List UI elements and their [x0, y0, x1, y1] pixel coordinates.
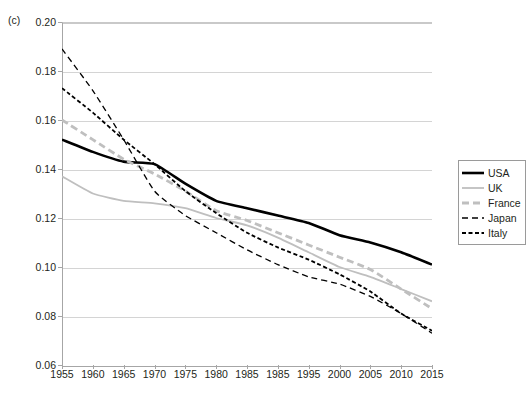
legend-item-france[interactable]: France — [461, 195, 522, 210]
x-axis-tick-mark — [124, 365, 125, 369]
x-axis-tick-mark — [185, 365, 186, 369]
legend-swatch-uk-icon — [461, 182, 485, 194]
x-axis-tick-mark — [432, 365, 433, 369]
legend-swatch-usa-icon — [461, 167, 485, 179]
legend-swatch-france-icon — [461, 197, 485, 209]
x-axis-tick-mark — [401, 365, 402, 369]
legend-label: France — [485, 197, 521, 209]
legend-label: Japan — [485, 212, 517, 224]
legend-item-uk[interactable]: UK — [461, 180, 522, 195]
legend-label: USA — [485, 167, 510, 179]
series-line-uk — [62, 176, 432, 301]
legend-item-usa[interactable]: USA — [461, 165, 522, 180]
x-axis-tick-mark — [340, 365, 341, 369]
x-axis-tick-mark — [247, 365, 248, 369]
x-axis-tick-mark — [278, 365, 279, 369]
series-line-usa — [62, 140, 432, 265]
legend-swatch-japan-icon — [461, 212, 485, 224]
x-axis-tick-mark — [370, 365, 371, 369]
legend-swatch-italy-icon — [461, 227, 485, 239]
x-axis-tick-mark — [216, 365, 217, 369]
x-axis-tick-label: 2015 — [412, 368, 452, 380]
legend-label: Italy — [485, 227, 507, 239]
series-line-japan — [62, 49, 432, 333]
x-axis-tick-mark — [62, 365, 63, 369]
series-line-france — [62, 120, 432, 309]
legend-item-japan[interactable]: Japan — [461, 210, 522, 225]
x-axis-tick-mark — [309, 365, 310, 369]
legend-item-italy[interactable]: Italy — [461, 225, 522, 240]
series-lines — [62, 22, 432, 365]
chart-figure: (c) 0.200.180.160.140.120.100.080.06 195… — [0, 0, 531, 400]
legend: USAUKFranceJapanItaly — [458, 160, 526, 245]
x-axis-tick-mark — [155, 365, 156, 369]
legend-label: UK — [485, 182, 503, 194]
x-axis-tick-mark — [93, 365, 94, 369]
